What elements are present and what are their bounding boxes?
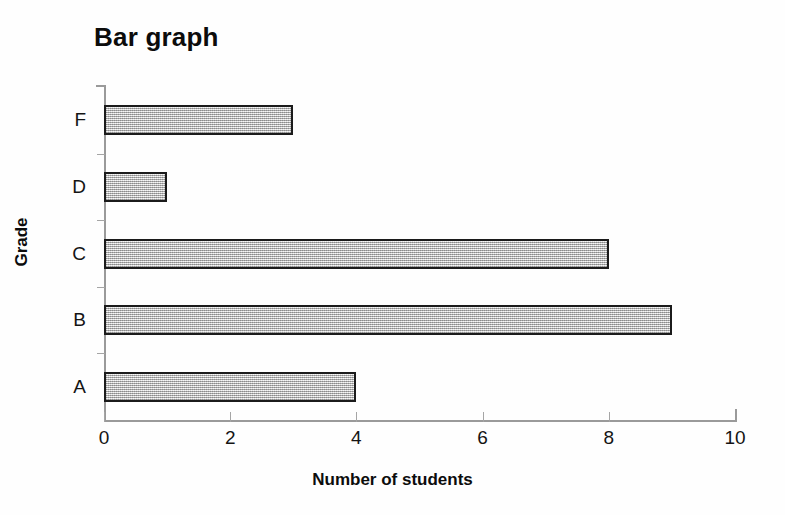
x-tick-label-10: 10 [705, 428, 765, 447]
x-axis-line [104, 420, 737, 422]
bar-f [104, 105, 293, 135]
y-tick-label-d: D [46, 177, 86, 196]
x-tick-mark [230, 412, 231, 422]
y-axis-title: Grade [12, 182, 32, 302]
y-tick-mark [97, 353, 105, 354]
y-tick-mark [97, 154, 105, 155]
bar-d [104, 172, 167, 202]
x-tick-mark [483, 412, 484, 422]
x-tick-label-2: 2 [200, 428, 260, 447]
x-tick-label-8: 8 [579, 428, 639, 447]
x-tick-mark [104, 412, 105, 422]
y-tick-label-b: B [46, 310, 86, 329]
x-tick-mark [356, 412, 357, 422]
y-tick-label-f: F [46, 110, 86, 129]
y-tick-label-c: C [46, 244, 86, 263]
y-tick-mark [97, 220, 105, 221]
x-axis-title: Number of students [0, 470, 785, 490]
x-tick-label-6: 6 [453, 428, 513, 447]
bar-b [104, 305, 672, 335]
chart-title: Bar graph [94, 22, 219, 53]
x-tick-label-4: 4 [326, 428, 386, 447]
bar-c [104, 239, 609, 269]
x-tick-label-0: 0 [74, 428, 134, 447]
x-tick-mark [609, 412, 610, 422]
bar-chart: Bar graph Grade Number of students FDCBA… [0, 0, 785, 515]
y-axis-top-tick [96, 85, 105, 87]
y-tick-mark [97, 287, 105, 288]
bar-a [104, 372, 356, 402]
x-axis-end-tick [735, 409, 737, 422]
y-tick-label-a: A [46, 377, 86, 396]
